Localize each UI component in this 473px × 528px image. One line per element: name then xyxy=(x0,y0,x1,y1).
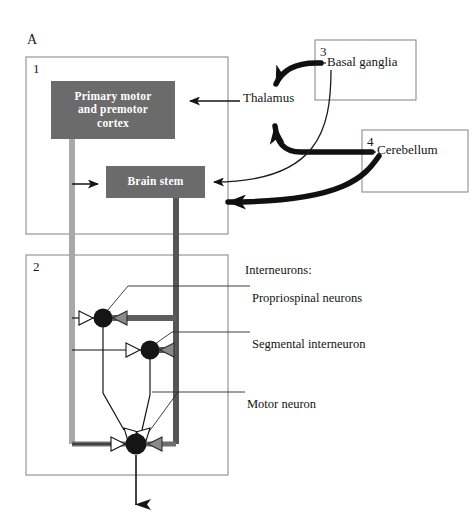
segmental-interneuron-soma xyxy=(141,341,160,360)
thalamus-label: Thalamus xyxy=(243,91,294,104)
motor-neuron-soma xyxy=(126,434,147,455)
brain-stem-label: Brain stem xyxy=(128,175,184,189)
segmental-interneuron-label: Segmental interneuron xyxy=(252,338,366,351)
synapse-open-segmental xyxy=(126,343,140,357)
arrow-cerebellum-to-thalamus xyxy=(275,126,372,152)
propriospinal-neuron-soma xyxy=(94,309,113,328)
synapse-gray-segmental xyxy=(160,343,174,357)
thalamic-projections xyxy=(190,63,379,202)
synapse-gray-propriospinal xyxy=(113,311,127,325)
synapse-open-motor xyxy=(111,437,125,451)
diagram-vector-layer xyxy=(0,0,473,528)
spinal-wiring xyxy=(72,318,150,444)
basal-ganglia-label: Basal ganglia xyxy=(327,55,397,68)
motor-neuron-label: Motor neuron xyxy=(247,398,316,411)
arrow-basal-ganglia-to-thalamus xyxy=(276,63,321,84)
cortex-label-line-2: and premotor xyxy=(78,103,148,117)
synapse-open-propriospinal xyxy=(79,311,93,325)
cortex-label-line-1: Primary motor xyxy=(75,90,152,104)
cortex-label-line-3: cortex xyxy=(97,117,129,131)
wire-segmental-axon xyxy=(142,359,150,430)
cerebellum-label: Cerebellum xyxy=(377,143,438,156)
panel-4-number: 4 xyxy=(367,135,374,148)
interneurons-heading: Interneurons: xyxy=(245,264,312,277)
leader-segmental xyxy=(155,332,250,344)
primary-motor-cortex-box: Primary motor and premotor cortex xyxy=(51,81,175,139)
synapse-terminals xyxy=(79,311,174,451)
propriospinal-neurons-label: Propriospinal neurons xyxy=(252,292,362,305)
panel-3-number: 3 xyxy=(320,45,327,58)
panel-1-number: 1 xyxy=(33,62,40,75)
figure-canvas: A 1 2 3 4 Primary motor and premotor cor… xyxy=(0,0,473,528)
brain-stem-box: Brain stem xyxy=(106,166,205,198)
synapse-gray-motor xyxy=(148,437,162,451)
figure-panel-letter: A xyxy=(27,33,37,47)
wire-propriospinal-axon xyxy=(103,327,124,430)
panel-2-number: 2 xyxy=(33,260,40,273)
